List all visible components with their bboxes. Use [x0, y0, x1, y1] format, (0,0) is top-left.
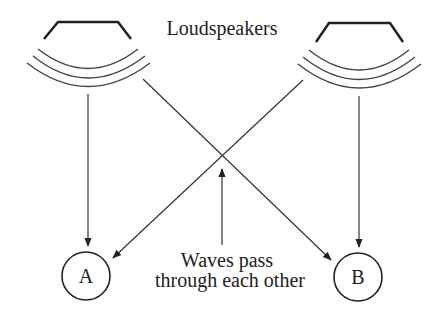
listener-a-label: A	[79, 265, 94, 287]
wave-path-arrows	[88, 79, 359, 260]
interference-diagram: A B Loudspeakers Waves pass through each…	[0, 0, 442, 324]
left-loudspeaker-icon	[44, 22, 131, 39]
annotation-line-2: through each other	[155, 269, 305, 292]
right-loudspeaker-icon	[316, 23, 403, 42]
listener-a: A	[62, 252, 110, 300]
listener-b-label: B	[351, 266, 364, 288]
right-sound-waves	[298, 50, 421, 88]
loudspeakers-title: Loudspeakers	[166, 17, 277, 40]
left-sound-waves	[27, 49, 150, 87]
left-to-b-arrow	[143, 79, 331, 260]
right-to-a-arrow	[113, 80, 303, 258]
listener-b: B	[334, 253, 382, 301]
